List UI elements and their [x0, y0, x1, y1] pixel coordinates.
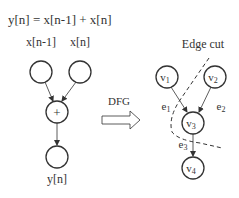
edge-x-n-to-adder: [62, 82, 76, 101]
input-label-x-n: x[n]: [70, 35, 90, 49]
node-v2-label: v2: [208, 71, 218, 85]
edge-e2: [199, 87, 211, 112]
edge-cut-title: Edge cut: [182, 37, 225, 51]
output-label: y[n]: [47, 172, 67, 186]
transform-arrow-icon: [102, 111, 140, 129]
plus-operator: +: [53, 105, 60, 120]
edge-x-n-1-to-adder: [45, 82, 53, 101]
node-v1-label: v1: [160, 71, 170, 85]
node-v3-label: v3: [186, 117, 196, 131]
input-node-x-n-1: [30, 61, 52, 83]
equation-label: y[n] = x[n-1] + x[n]: [8, 12, 111, 27]
dfg-label: DFG: [108, 95, 130, 107]
input-label-x-n-1: x[n-1]: [26, 35, 56, 49]
output-node: [46, 146, 68, 168]
input-node-x-n: [69, 61, 91, 83]
edge-cut-curve: [171, 58, 222, 148]
edge-e1: [171, 87, 187, 112]
node-v4-label: v4: [186, 162, 196, 176]
dfg-diagram: y[n] = x[n-1] + x[n] x[n-1] x[n] + y[n] …: [0, 0, 239, 198]
edge-e2-label: e2: [217, 100, 226, 114]
edge-e1-label: e1: [162, 100, 171, 114]
